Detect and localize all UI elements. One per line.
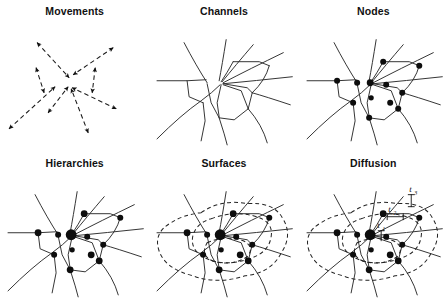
node-dot: [416, 214, 422, 220]
node-dot: [117, 214, 123, 220]
movement-arrow: [71, 89, 88, 133]
node-dot: [200, 251, 206, 257]
node-dot: [395, 106, 401, 112]
node-dot: [88, 251, 95, 258]
node-dot: [354, 80, 360, 86]
node-dot: [234, 233, 240, 239]
surfaces-diagram: [149, 172, 298, 302]
panel-diffusion: Diffusion: [299, 152, 448, 303]
node-dot: [368, 95, 373, 100]
node-dot: [416, 63, 422, 69]
movement-arrow: [72, 88, 116, 109]
node-dot: [380, 59, 386, 65]
node-dot: [219, 247, 224, 252]
panel-surfaces: Surfaces: [149, 152, 298, 303]
node-dot: [366, 79, 373, 86]
figure-sheet: Movements: [0, 0, 448, 303]
node-dot: [237, 251, 244, 258]
node-dot: [399, 241, 405, 247]
panel-title-diffusion: Diffusion: [299, 157, 448, 169]
node-dot: [35, 229, 42, 236]
node-dot: [96, 257, 103, 264]
hierarchy-node-group: [35, 210, 124, 273]
node-dot: [394, 257, 401, 264]
panel-canvas-diffusion: t 3 t 2 t 1: [299, 172, 448, 302]
movement-arrow: [9, 87, 55, 129]
time-label-t2-subscript: 2: [393, 209, 396, 215]
panel-nodes: Nodes: [299, 0, 448, 152]
node-dot: [267, 214, 273, 220]
surface-contour-inner: [205, 238, 251, 263]
node-dot: [55, 231, 61, 237]
movement-arrow-group: [9, 43, 116, 133]
nodes-diagram: [299, 20, 448, 150]
node-dot: [383, 82, 389, 88]
panel-canvas-nodes: [299, 20, 448, 150]
node-dot: [399, 90, 405, 96]
panel-channels: Channels: [149, 0, 298, 152]
node-dot: [51, 251, 57, 257]
node-dot: [84, 233, 90, 239]
panel-canvas-hierarchies: [0, 172, 149, 302]
panel-title-hierarchies: Hierarchies: [0, 157, 149, 169]
node-dot: [368, 247, 373, 252]
time-label-t3-subscript: 3: [413, 189, 417, 195]
movement-arrow: [92, 68, 95, 93]
node-dot-group: [334, 59, 422, 121]
movement-arrow: [73, 48, 113, 75]
node-link-group: [307, 40, 442, 145]
channels-diagram: [149, 20, 298, 150]
panel-title-nodes: Nodes: [299, 5, 448, 17]
surface-node-group: [184, 210, 273, 273]
hierarchy-link-group: [8, 191, 143, 296]
panel-hierarchies: Hierarchies: [0, 152, 149, 303]
panel-canvas-movements: [0, 20, 149, 150]
panel-title-surfaces: Surfaces: [149, 157, 298, 169]
diffusion-time-label-group: t 3 t 2 t 1: [377, 183, 417, 231]
node-dot: [245, 257, 252, 264]
node-dot: [204, 231, 210, 237]
panel-movements: Movements: [0, 0, 149, 152]
node-dot-primary: [66, 229, 77, 240]
movements-diagram: [0, 20, 149, 150]
node-dot: [379, 210, 386, 217]
panel-grid: Movements: [0, 0, 448, 303]
channel-line-group: [157, 40, 292, 145]
time-label-t1-subscript: 1: [382, 225, 385, 231]
panel-title-channels: Channels: [149, 5, 298, 17]
node-dot: [387, 100, 393, 106]
node-dot: [100, 241, 106, 247]
node-dot: [250, 241, 256, 247]
node-dot: [386, 251, 393, 258]
node-dot: [365, 266, 372, 273]
node-dot: [67, 266, 74, 273]
diffusion-diagram: t 3 t 2 t 1: [299, 172, 448, 302]
node-dot: [383, 233, 389, 239]
panel-canvas-channels: [149, 20, 298, 150]
node-dot: [81, 210, 88, 217]
hierarchies-diagram: [0, 172, 149, 302]
movement-arrow: [36, 68, 44, 93]
node-dot: [333, 229, 340, 236]
node-dot: [350, 100, 356, 106]
node-dot: [184, 229, 191, 236]
panel-canvas-surfaces: [149, 172, 298, 302]
node-dot: [334, 78, 340, 84]
panel-title-movements: Movements: [0, 5, 149, 17]
node-dot: [230, 210, 237, 217]
node-dot-primary: [364, 229, 375, 240]
node-dot: [216, 266, 223, 273]
diffusion-contour-t1: [354, 238, 400, 263]
node-dot: [350, 251, 356, 257]
movement-arrow: [37, 43, 69, 78]
node-dot: [366, 115, 372, 121]
time-label-t2: t: [388, 203, 391, 213]
time-label-t3: t: [409, 183, 412, 193]
node-dot: [70, 247, 75, 252]
node-dot-primary: [215, 229, 226, 240]
node-dot: [354, 231, 360, 237]
